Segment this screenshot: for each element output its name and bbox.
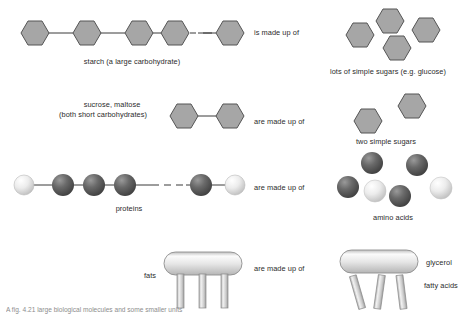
figure-graphics <box>0 0 474 318</box>
connector-text-protein: are made up of <box>254 183 304 193</box>
label-sucrose-maltose-line2: (both short carbohydrates) <box>40 110 166 120</box>
label-fats: fats <box>98 271 156 281</box>
protein-chain-graphic <box>14 174 245 196</box>
simple-sugar-cluster-graphic <box>346 9 440 60</box>
label-proteins: proteins <box>84 204 174 214</box>
label-glycerol: glycerol <box>426 258 452 268</box>
label-amino-acids: amino acids <box>344 213 442 223</box>
sucrose-pair-graphic <box>170 104 244 128</box>
connector-text-sucrose: are made up of <box>254 117 304 127</box>
two-simple-sugars-graphic <box>354 94 426 133</box>
label-fatty-acids: fatty acids <box>424 281 458 291</box>
label-starch: starch (a large carbohydrate) <box>52 57 212 67</box>
glycerol-fatty-acids-graphic <box>340 250 418 309</box>
fat-molecule-graphic <box>164 252 242 308</box>
amino-acid-cluster-graphic <box>337 152 452 207</box>
connector-text-fat: are made up of <box>254 264 304 274</box>
starch-chain-graphic <box>21 21 244 45</box>
figure-caption: A fig. 4.21 large biological molecules a… <box>6 306 466 314</box>
biology-figure: starch (a large carbohydrate) is made up… <box>0 0 474 318</box>
connector-text-starch: is made up of <box>254 28 299 38</box>
label-sucrose-maltose-line1: sucrose, maltose <box>58 100 166 110</box>
label-simple-sugars: lots of simple sugars (e.g. glucose) <box>305 67 471 77</box>
label-two-simple-sugars: two simple sugars <box>330 137 442 147</box>
